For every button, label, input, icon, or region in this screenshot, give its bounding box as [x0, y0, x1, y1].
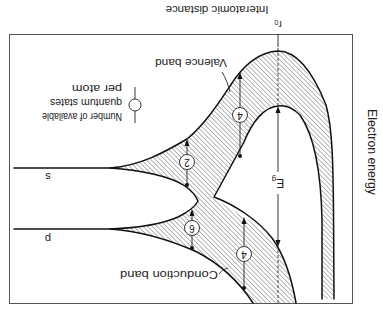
- arrow-end-dot: [238, 154, 242, 158]
- s-level-label: s: [45, 171, 51, 183]
- arrow-end-dot: [242, 286, 246, 290]
- s-state-count: 2: [184, 157, 190, 168]
- conduction-band-label: Conduction band: [120, 269, 218, 281]
- legend-circle-icon: [129, 99, 141, 111]
- y-axis-label: Electron energy: [365, 109, 379, 195]
- arrow-end-dot: [185, 183, 189, 187]
- legend-line-3: per atom: [72, 83, 122, 94]
- arrowhead-up-icon: [276, 106, 281, 113]
- valence-band-label: Valence band: [155, 57, 227, 69]
- valence-state-count: 4: [237, 110, 243, 121]
- p-state-count: 6: [189, 223, 195, 234]
- conduction-state-count: 4: [241, 249, 247, 260]
- band-hatched-region: [110, 51, 334, 303]
- legend-symbol: [129, 87, 141, 123]
- band-structure-diagram: Eg 4 2 6 4 Number: [0, 0, 383, 314]
- valence-label-leader: [222, 72, 230, 92]
- legend-line-2: quantum states: [50, 97, 122, 108]
- arrow-end-dot: [190, 246, 194, 250]
- legend-line-1: Number of available: [42, 111, 122, 122]
- x-axis-label: Interatomic distance: [166, 4, 269, 16]
- band-gap-label: Eg: [272, 176, 284, 191]
- p-level-label: p: [45, 233, 51, 245]
- r0-label: r0: [274, 20, 281, 31]
